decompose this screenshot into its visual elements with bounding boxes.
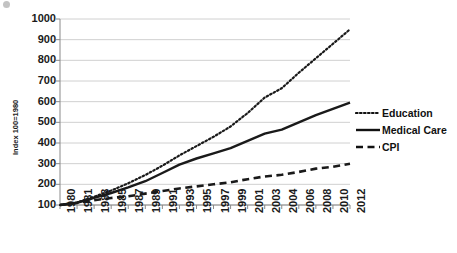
legend-swatch-dashed-icon	[355, 141, 381, 153]
x-tick-label: 2006	[304, 189, 316, 213]
x-tick-label: 1993	[184, 189, 196, 213]
legend-label: Medical Care	[382, 124, 447, 136]
chart-legend: EducationMedical CareCPI	[355, 104, 455, 155]
x-tick-label: 1980	[65, 189, 77, 213]
x-tick-label: 1987	[133, 189, 145, 213]
x-tick-label: 2008	[321, 189, 333, 213]
legend-swatch-dotted-icon	[355, 107, 381, 119]
legend-label: CPI	[382, 141, 400, 153]
x-tick-label: 2003	[270, 189, 282, 213]
x-tick-label: 2004	[287, 189, 299, 213]
legend-swatch-solid-icon	[355, 124, 381, 136]
x-tick-label: 1983	[99, 189, 111, 213]
x-tick-label: 1997	[219, 189, 231, 213]
legend-item-education[interactable]: Education	[355, 104, 455, 121]
x-tick-label: 1985	[116, 189, 128, 213]
legend-label: Education	[382, 107, 433, 119]
x-tick-label: 2010	[338, 189, 350, 213]
legend-item-cpi[interactable]: CPI	[355, 138, 455, 155]
legend-item-medical-care[interactable]: Medical Care	[355, 121, 455, 138]
x-tick-label: 1981	[82, 189, 94, 213]
line-chart: Index 100=1980 1000900800700600500400300…	[0, 0, 457, 253]
x-tick-label: 2001	[253, 189, 265, 213]
x-tick-label: 1989	[150, 189, 162, 213]
x-tick-label: 1995	[201, 189, 213, 213]
x-tick-label: 1999	[236, 189, 248, 213]
x-tick-label: 2012	[355, 189, 367, 213]
x-tick-label: 1991	[167, 189, 179, 213]
